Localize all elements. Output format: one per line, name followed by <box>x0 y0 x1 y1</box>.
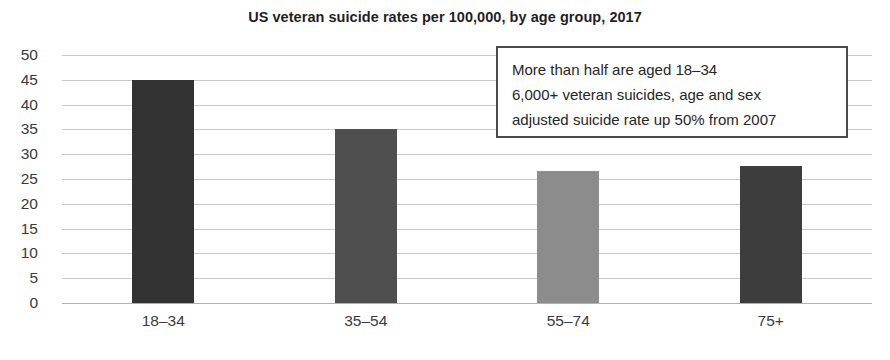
x-tick-label-75+: 75+ <box>670 312 873 330</box>
y-tick-label-45: 45 <box>0 72 38 88</box>
y-tick-label-5: 5 <box>0 270 38 286</box>
x-tick-label-55–74: 55–74 <box>467 312 670 330</box>
x-tick-label-18–34: 18–34 <box>62 312 265 330</box>
y-tick-label-20: 20 <box>0 196 38 212</box>
y-tick-label-30: 30 <box>0 146 38 162</box>
y-tick-label-0: 0 <box>0 295 38 311</box>
y-tick-label-35: 35 <box>0 122 38 138</box>
y-tick-label-40: 40 <box>0 97 38 113</box>
callout-line-2: 6,000+ veteran suicides, age and sex <box>512 82 834 107</box>
x-tick-label-35–54: 35–54 <box>265 312 468 330</box>
bar-18–34[interactable] <box>132 80 194 303</box>
bar-slot <box>265 55 468 303</box>
callout-line-1: More than half are aged 18–34 <box>512 57 834 82</box>
y-tick-label-15: 15 <box>0 221 38 237</box>
annotation-callout: More than half are aged 18–34 6,000+ vet… <box>496 46 848 138</box>
bar-75+[interactable] <box>740 166 802 303</box>
y-tick-label-10: 10 <box>0 246 38 262</box>
bar-35–54[interactable] <box>335 129 397 303</box>
callout-line-3: adjusted suicide rate up 50% from 2007 <box>512 107 834 132</box>
gridline-0 <box>62 303 872 304</box>
bar-slot <box>62 55 265 303</box>
chart-title: US veteran suicide rates per 100,000, by… <box>0 9 890 25</box>
chart-container: US veteran suicide rates per 100,000, by… <box>0 0 890 360</box>
y-tick-label-25: 25 <box>0 171 38 187</box>
bar-55–74[interactable] <box>537 171 599 303</box>
y-tick-label-50: 50 <box>0 47 38 63</box>
